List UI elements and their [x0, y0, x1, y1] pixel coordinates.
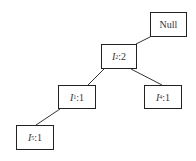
node-i1: I1:1: [58, 85, 96, 109]
node-i2: I2:2: [101, 44, 137, 69]
node-label: Null: [160, 19, 178, 30]
node-count: :1: [34, 132, 42, 143]
node-null-root: Null: [150, 12, 187, 37]
node-i4: I4:1: [144, 85, 182, 109]
edge-i2-i1: [88, 69, 104, 85]
node-count: :1: [162, 92, 170, 103]
node-i5: I5:1: [16, 125, 54, 150]
node-count: :2: [118, 51, 126, 62]
edge-root-i2: [136, 37, 150, 44]
node-count: :1: [76, 92, 84, 103]
edge-i2-i4: [131, 69, 162, 85]
edge-i1-i5: [36, 109, 60, 125]
